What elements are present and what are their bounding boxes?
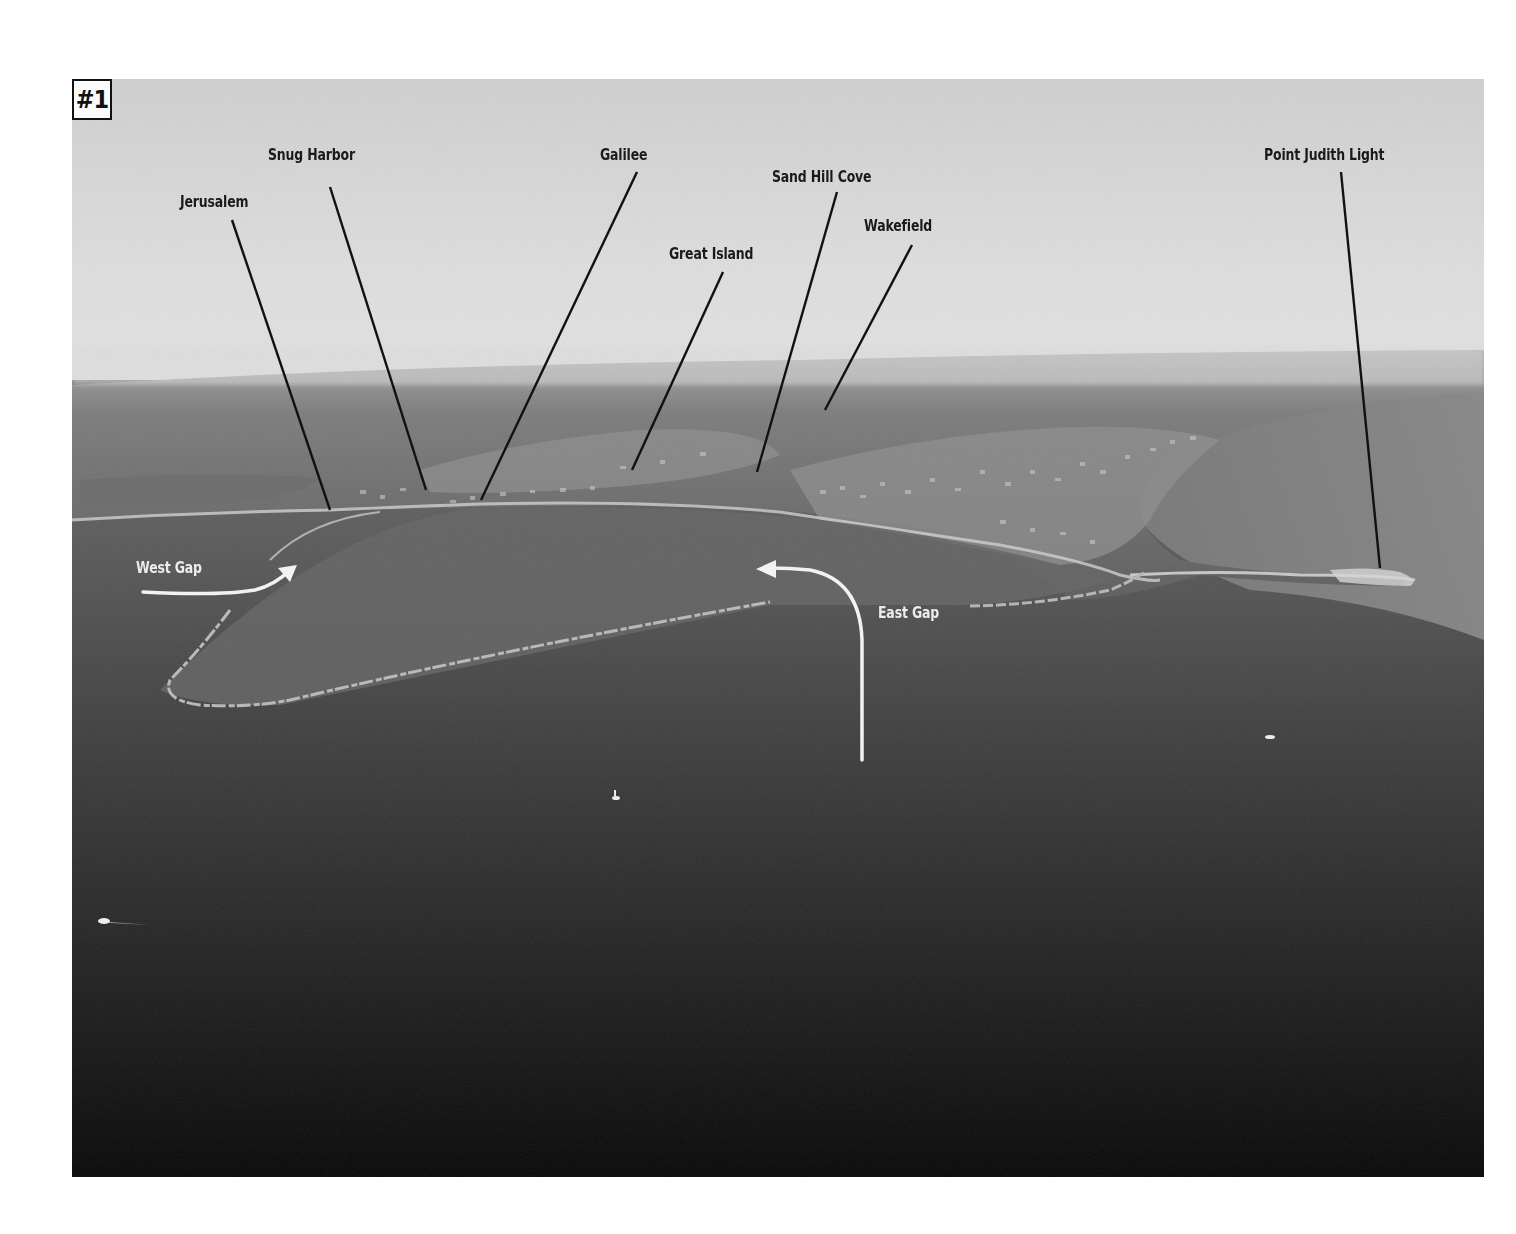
label-jerusalem: Jerusalem <box>180 192 248 211</box>
label-snug-harbor: Snug Harbor <box>268 145 355 164</box>
label-galilee: Galilee <box>600 145 647 164</box>
label-sand-hill-cove: Sand Hill Cove <box>772 167 871 186</box>
label-great-island: Great Island <box>669 244 753 263</box>
label-wakefield: Wakefield <box>864 216 932 235</box>
aerial-photo <box>72 79 1484 1177</box>
label-west-gap: West Gap <box>136 558 202 577</box>
figure-number-badge: #1 <box>72 79 112 120</box>
label-point-judith-light: Point Judith Light <box>1264 145 1384 164</box>
label-east-gap: East Gap <box>878 603 939 622</box>
